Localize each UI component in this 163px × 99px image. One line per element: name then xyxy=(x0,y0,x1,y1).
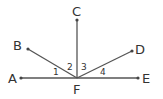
point-a-dot xyxy=(19,76,22,79)
point-e-dot xyxy=(136,76,139,79)
label-f: F xyxy=(73,82,80,97)
label-a: A xyxy=(8,71,17,86)
point-d-dot xyxy=(130,49,133,52)
angle-label-4: 4 xyxy=(100,67,106,77)
label-e: E xyxy=(142,71,150,86)
point-b-dot xyxy=(26,47,29,50)
label-c: C xyxy=(72,4,81,19)
angle-label-2: 2 xyxy=(67,62,73,72)
geometry-diagram: A B C D E F 1 2 3 4 xyxy=(0,0,163,99)
angle-label-3: 3 xyxy=(81,62,87,72)
angle-label-1: 1 xyxy=(53,67,59,77)
label-d: D xyxy=(135,42,145,57)
label-b: B xyxy=(13,38,22,53)
